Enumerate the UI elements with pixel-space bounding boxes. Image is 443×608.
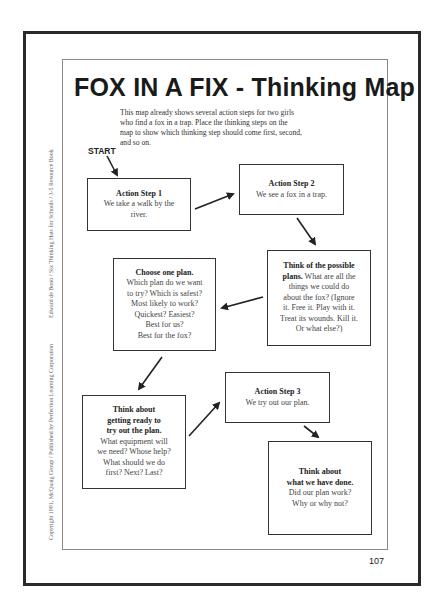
think-possible-plans-box: Think of the possible plans. What are al… [267, 250, 371, 346]
box-heading: Action Step 3 [255, 387, 301, 398]
box-heading: Action Step 2 [269, 179, 315, 190]
box-line: things we could do [289, 282, 350, 293]
box-line: Best for the fox? [138, 331, 192, 342]
box-line: to try? Which is safest? [127, 289, 202, 300]
arrow-choose-to-ready-icon [139, 357, 162, 389]
box-heading: Think about [299, 467, 341, 478]
box-line: Which plan do we want [127, 278, 203, 289]
think-what-done-box: Think about what we have done. Did our p… [268, 441, 372, 535]
box-line: Treat its wounds. Kill it. [280, 314, 358, 325]
box-heading: Think of the possible [283, 261, 354, 272]
inline-bold-text: plans. [283, 272, 303, 281]
box-line: What should we do [103, 458, 165, 469]
box-line: plans. What are all the [283, 272, 356, 283]
think-getting-ready-box: Think about getting ready to try out the… [82, 395, 186, 489]
box-line: Did our plan work? [289, 488, 351, 499]
box-heading: Think about [113, 405, 155, 416]
action-step-1-box: Action Step 1 We take a walk by the rive… [87, 178, 191, 231]
box-line: it. Free it. Play with it. [283, 303, 355, 314]
action-step-3-box: Action Step 3 We try out our plan. [225, 372, 330, 423]
box-line: We see a fox in a trap. [256, 190, 327, 201]
box-heading: Action Step 1 [116, 189, 162, 200]
box-line: We take a walk by the [104, 199, 175, 210]
box-heading: try out the plan. [106, 426, 161, 437]
box-heading: getting ready to [107, 416, 161, 427]
arrow-step3-to-done-icon [304, 426, 318, 437]
box-line: Best for us? [145, 320, 183, 331]
box-line: What equipment will [100, 437, 168, 448]
box-line: Quickest? Easiest? [134, 310, 194, 321]
box-line: We try out our plan. [245, 398, 309, 409]
box-line: first? Next? Last? [106, 468, 163, 479]
box-line: about the fox? (Ignore [283, 293, 354, 304]
arrow-ready-to-step3-icon [189, 403, 219, 436]
box-line: Most likely to work? [131, 299, 198, 310]
flow-arrows [0, 0, 443, 608]
arrow-step2-to-plans-icon [297, 218, 315, 244]
choose-one-plan-box: Choose one plan. Which plan do we want t… [113, 258, 216, 351]
box-line: Or what else?) [296, 324, 343, 335]
box-line: Why or why not? [292, 499, 348, 510]
box-line: river. [131, 210, 148, 221]
arrow-plans-to-choose-icon [222, 297, 263, 308]
action-step-2-box: Action Step 2 We see a fox in a trap. [239, 164, 344, 215]
page-number: 107 [369, 556, 384, 566]
box-line: we need? Whose help? [97, 447, 170, 458]
box-heading: Choose one plan. [135, 268, 193, 279]
arrow-step1-to-step2-icon [195, 194, 233, 209]
box-heading: what we have done. [287, 478, 354, 489]
arrow-start-icon [107, 156, 117, 175]
